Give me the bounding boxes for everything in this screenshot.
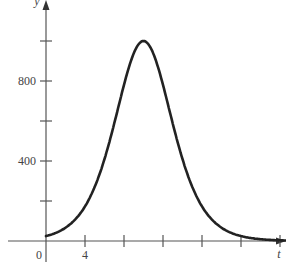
x-axis-label: t: [277, 247, 281, 261]
y-tick-label: 800: [18, 74, 36, 88]
y-axis-arrow-icon: [43, 0, 50, 10]
y-axis-label: y: [33, 0, 40, 8]
x-tick-label: 4: [82, 248, 88, 262]
axes: [8, 0, 286, 262]
data-curve: [46, 41, 286, 241]
x-tick-label: 0: [36, 248, 42, 262]
chart: 40080004ty: [0, 0, 286, 267]
axis-labels: 40080004ty: [18, 0, 281, 262]
y-tick-label: 400: [18, 154, 36, 168]
